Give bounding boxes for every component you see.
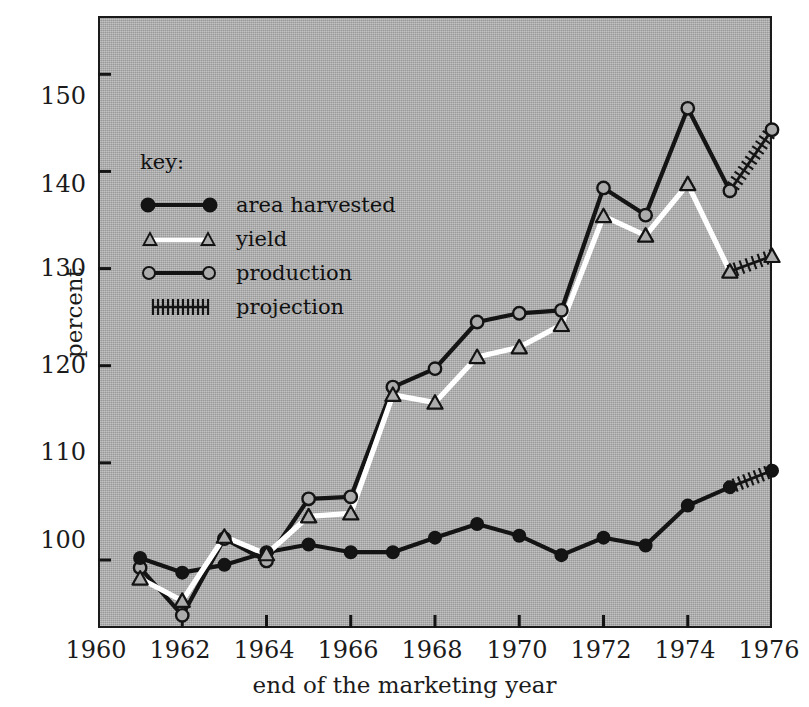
y-tick-label: 150: [14, 84, 86, 108]
legend-title: key:: [140, 150, 430, 174]
open-circle-line-icon: [140, 262, 226, 284]
chart-figure: 150 140 130 120 110 100 percent 1960 196…: [0, 0, 809, 707]
x-tick-label: 1970: [472, 636, 562, 664]
y-axis-label: percent: [61, 233, 87, 393]
filled-circle-line-icon: [140, 194, 226, 216]
legend-label: projection: [236, 295, 344, 319]
x-tick-label: 1974: [640, 636, 730, 664]
hatched-line-icon: [140, 296, 226, 318]
y-tick-label: 110: [14, 440, 86, 464]
x-tick-label: 1968: [387, 636, 477, 664]
x-tick-label: 1962: [135, 636, 225, 664]
legend-item-production[interactable]: production: [140, 256, 430, 290]
legend-item-projection[interactable]: projection: [140, 290, 430, 324]
x-tick-label: 1966: [303, 636, 393, 664]
open-triangle-white-line-icon: [140, 228, 226, 250]
x-tick-label: 1960: [51, 636, 141, 664]
x-tick-label: 1964: [219, 636, 309, 664]
y-tick-label: 140: [14, 172, 86, 196]
x-axis-label: end of the marketing year: [0, 672, 809, 698]
y-tick-label: 100: [14, 528, 86, 552]
legend-label: area harvested: [236, 193, 396, 217]
legend-label: yield: [236, 227, 287, 251]
legend-label: production: [236, 261, 352, 285]
x-tick-label: 1976: [724, 636, 809, 664]
legend: key: area harvested yield: [140, 150, 430, 324]
legend-item-yield[interactable]: yield: [140, 222, 430, 256]
legend-item-area-harvested[interactable]: area harvested: [140, 188, 430, 222]
x-tick-label: 1972: [556, 636, 646, 664]
